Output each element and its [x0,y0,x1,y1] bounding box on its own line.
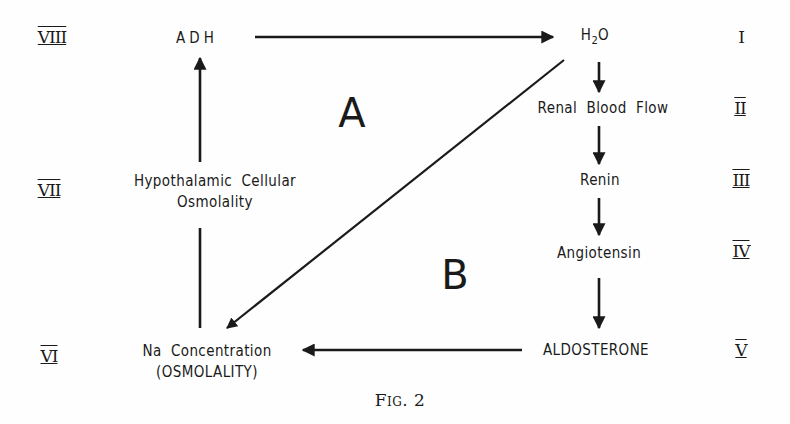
region-label-b: B [441,252,468,298]
node-h2o: H2O [581,25,609,51]
node-adh: ADH [176,28,218,49]
arrows-layer [0,0,790,424]
na-concentration-line1: Na Concentration [142,341,271,362]
roman-numeral-v: V [735,341,746,359]
na-concentration-line2: (OSMOLALITY) [142,362,271,383]
node-renal-blood-flow: Renal Blood Flow [538,98,669,119]
figure-caption: Fig. 2 [375,390,426,410]
roman-numeral-ii: II [734,99,745,117]
h2o-h: H [581,26,592,44]
roman-numeral-vi: VI [41,347,58,365]
roman-numeral-iv: IV [733,242,750,260]
h2o-o: O [598,26,609,44]
roman-numeral-vii: VII [38,181,61,199]
diagram-canvas: ADH H2O Renal Blood Flow Renin Angiotens… [0,0,790,424]
hypothalamic-line2: Osmolality [134,192,296,213]
roman-numeral-viii: VIII [38,28,66,46]
node-renin: Renin [580,170,620,191]
node-aldosterone: ALDOSTERONE [543,340,649,361]
node-na-concentration: Na Concentration (OSMOLALITY) [142,341,271,383]
roman-numeral-iii: III [732,171,749,189]
hypothalamic-line1: Hypothalamic Cellular [134,171,296,192]
region-label-a: A [338,90,365,136]
node-hypothalamic-osmolality: Hypothalamic Cellular Osmolality [134,171,296,213]
node-angiotensin: Angiotensin [557,243,641,264]
roman-numeral-i: I [738,28,744,46]
